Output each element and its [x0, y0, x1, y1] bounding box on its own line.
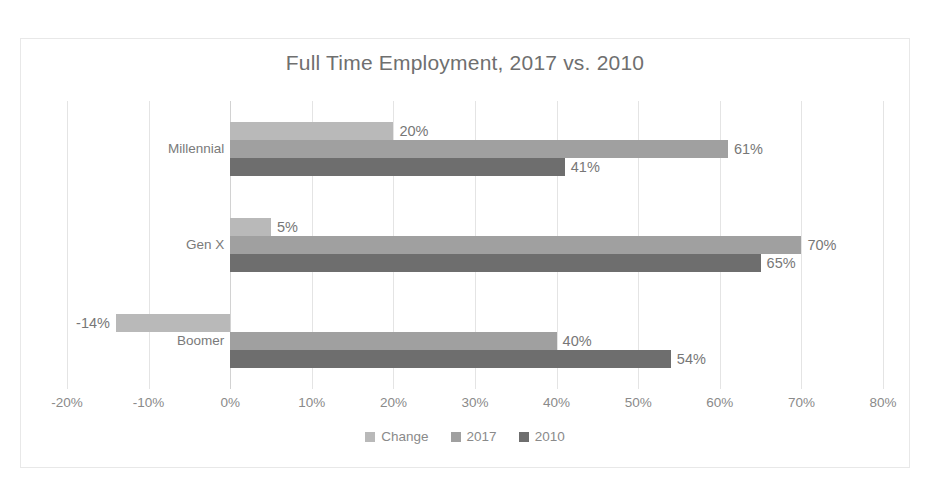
bar-gen-x-2017[interactable]: [230, 236, 801, 254]
legend-item-2017[interactable]: 2017: [451, 429, 497, 444]
data-label-boomer-2017: 40%: [557, 332, 592, 350]
legend-swatch-icon: [365, 432, 375, 442]
x-tick-label: 10%: [298, 395, 325, 410]
legend-item-2010[interactable]: 2010: [519, 429, 565, 444]
x-axis: -20%-10%0%10%20%30%40%50%60%70%80%: [67, 391, 883, 415]
bar-millennial-2010[interactable]: [230, 158, 565, 176]
bar-millennial-2017[interactable]: [230, 140, 728, 158]
gridline: [149, 101, 150, 389]
x-tick-label: 70%: [788, 395, 815, 410]
legend-label: Change: [381, 429, 428, 444]
chart-container: Full Time Employment, 2017 vs. 2010 20%6…: [20, 38, 910, 468]
gridline: [67, 101, 68, 389]
data-label-millennial-change: 20%: [393, 122, 428, 140]
bar-gen-x-2010[interactable]: [230, 254, 760, 272]
bar-boomer-2010[interactable]: [230, 350, 671, 368]
x-tick-label: -10%: [133, 395, 165, 410]
plot-area: 20%61%41%5%70%65%-14%40%54% MillennialGe…: [67, 101, 883, 389]
data-label-gen-x-change: 5%: [271, 218, 298, 236]
x-tick-label: 20%: [380, 395, 407, 410]
legend-label: 2010: [535, 429, 565, 444]
legend-swatch-icon: [451, 432, 461, 442]
category-label-gen-x: Gen X: [186, 237, 224, 253]
chart-legend: Change20172010: [21, 429, 909, 444]
bar-gen-x-change[interactable]: [230, 218, 271, 236]
bar-boomer-2017[interactable]: [230, 332, 556, 350]
x-tick-label: -20%: [51, 395, 83, 410]
data-label-boomer-2010: 54%: [671, 350, 706, 368]
x-tick-label: 0%: [220, 395, 240, 410]
chart-title: Full Time Employment, 2017 vs. 2010: [21, 51, 909, 75]
x-tick-label: 40%: [543, 395, 570, 410]
data-label-boomer-change: -14%: [76, 314, 116, 332]
gridline: [883, 101, 884, 389]
x-tick-label: 50%: [625, 395, 652, 410]
x-tick-label: 80%: [869, 395, 896, 410]
data-label-gen-x-2010: 65%: [761, 254, 796, 272]
x-tick-label: 30%: [461, 395, 488, 410]
legend-swatch-icon: [519, 432, 529, 442]
data-label-millennial-2010: 41%: [565, 158, 600, 176]
x-tick-label: 60%: [706, 395, 733, 410]
data-label-gen-x-2017: 70%: [801, 236, 836, 254]
legend-item-change[interactable]: Change: [365, 429, 428, 444]
bar-boomer-change[interactable]: [116, 314, 230, 332]
category-label-millennial: Millennial: [168, 141, 224, 157]
bar-millennial-change[interactable]: [230, 122, 393, 140]
category-label-boomer: Boomer: [177, 333, 224, 349]
data-label-millennial-2017: 61%: [728, 140, 763, 158]
legend-label: 2017: [467, 429, 497, 444]
